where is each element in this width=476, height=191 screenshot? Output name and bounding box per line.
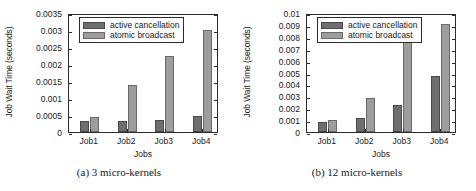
- bar-job2-atomic-broadcast: [128, 85, 137, 132]
- x-axis-tick-mark: [90, 129, 91, 132]
- y-tick-label: 0.002: [279, 105, 300, 114]
- bar-job4-atomic-broadcast: [203, 30, 212, 132]
- x-tick-label-job1: Job1: [80, 136, 98, 146]
- legend-swatch-icon-atomic-broadcast: [321, 32, 343, 39]
- y-axis-tick-mark: [307, 51, 310, 52]
- legend-item-atomic-broadcast: atomic broadcast: [321, 30, 417, 40]
- bar-job3-active-cancellation: [393, 105, 402, 132]
- y-axis-tick-mark-right: [452, 63, 455, 64]
- legend-label-atomic-broadcast: atomic broadcast: [110, 31, 175, 40]
- y-axis-tick-mark: [307, 27, 310, 28]
- y-axis-tick-labels-b: 00.0010.0020.0030.0040.0050.0060.0070.00…: [254, 14, 300, 133]
- y-tick-label: 0.004: [279, 81, 300, 90]
- y-tick-label: 0.001: [279, 117, 300, 126]
- bar-job3-active-cancellation: [155, 120, 164, 132]
- legend-swatch-icon-active-cancellation: [83, 22, 105, 29]
- y-axis-tick-mark-right: [452, 122, 455, 123]
- y-tick-label: 0.007: [279, 45, 300, 54]
- y-tick-label: 0: [295, 129, 300, 138]
- y-tick-label: 0.0015: [36, 78, 62, 87]
- bar-job1-active-cancellation: [318, 122, 327, 132]
- y-axis-tick-mark: [69, 134, 72, 135]
- x-axis-tick-mark: [403, 129, 404, 132]
- legend-swatch-icon-atomic-broadcast: [83, 32, 105, 39]
- x-tick-label-job2: Job2: [355, 136, 373, 146]
- x-tick-label-job4: Job4: [192, 136, 210, 146]
- figure-container: Job Wait Time (seconds) 00.00050.0010.00…: [0, 0, 476, 191]
- y-tick-label: 0.006: [279, 57, 300, 66]
- y-axis-tick-mark: [307, 75, 310, 76]
- y-axis-tick-mark-right: [452, 110, 455, 111]
- y-axis-tick-mark-right: [452, 15, 455, 16]
- y-axis-tick-mark: [69, 100, 72, 101]
- legend-item-atomic-broadcast: atomic broadcast: [83, 30, 179, 40]
- y-axis-tick-mark-right: [452, 98, 455, 99]
- y-axis-tick-mark: [69, 117, 72, 118]
- y-axis-tick-mark-right: [214, 134, 217, 135]
- y-axis-tick-mark-right: [214, 83, 217, 84]
- x-axis-tick-mark: [365, 129, 366, 132]
- y-axis-tick-mark-right: [452, 75, 455, 76]
- y-axis-tick-mark-right: [452, 86, 455, 87]
- y-axis-tick-mark-right: [452, 39, 455, 40]
- y-axis-tick-mark: [69, 49, 72, 50]
- bar-job2-active-cancellation: [356, 118, 365, 132]
- legend-label-active-cancellation: active cancellation: [110, 21, 179, 30]
- y-axis-tick-mark-right: [214, 100, 217, 101]
- y-axis-tick-mark: [307, 98, 310, 99]
- bar-job1-active-cancellation: [80, 121, 89, 132]
- legend-label-atomic-broadcast: atomic broadcast: [348, 31, 413, 40]
- x-tick-label-job4: Job4: [430, 136, 448, 146]
- y-axis-tick-mark-right: [214, 15, 217, 16]
- legend-label-active-cancellation: active cancellation: [348, 21, 417, 30]
- x-axis-tick-mark: [328, 129, 329, 132]
- y-axis-tick-mark: [307, 134, 310, 135]
- legend-swatch-icon-active-cancellation: [321, 22, 343, 29]
- plot-area-a: active cancellation atomic broadcast: [68, 14, 218, 133]
- y-tick-label: 0.0025: [36, 44, 62, 53]
- y-axis-tick-mark-right: [214, 49, 217, 50]
- y-axis-tick-mark: [69, 66, 72, 67]
- y-axis-tick-mark: [69, 15, 72, 16]
- x-axis-tick-labels-b: Job1Job2Job3Job4: [306, 136, 456, 148]
- y-axis-tick-mark: [307, 122, 310, 123]
- y-axis-tick-mark-right: [214, 32, 217, 33]
- y-tick-label: 0.002: [41, 61, 62, 70]
- y-axis-tick-mark: [307, 110, 310, 111]
- bar-job4-active-cancellation: [193, 116, 202, 132]
- x-axis-tick-mark: [165, 129, 166, 132]
- y-tick-label: 0.003: [41, 27, 62, 36]
- bar-job1-atomic-broadcast: [328, 120, 337, 132]
- y-axis-tick-mark-right: [214, 117, 217, 118]
- y-axis-title-a: Job Wait Time (seconds): [4, 0, 16, 16]
- x-tick-label-job3: Job3: [393, 136, 411, 146]
- chart-panel-b: Job Wait Time (seconds) 00.0010.0020.003…: [238, 0, 476, 191]
- x-axis-tick-mark: [440, 129, 441, 132]
- y-axis-tick-mark: [69, 83, 72, 84]
- legend-a: active cancellation atomic broadcast: [79, 17, 184, 43]
- y-axis-tick-mark: [307, 15, 310, 16]
- x-axis-tick-mark: [202, 129, 203, 132]
- y-axis-tick-mark-right: [214, 66, 217, 67]
- chart-panel-a: Job Wait Time (seconds) 00.00050.0010.00…: [0, 0, 238, 191]
- plot-area-b: active cancellation atomic broadcast: [306, 14, 456, 133]
- bar-job2-atomic-broadcast: [366, 98, 375, 133]
- legend-item-active-cancellation: active cancellation: [321, 20, 417, 30]
- y-tick-label: 0.0035: [36, 10, 62, 19]
- y-axis-tick-mark: [307, 39, 310, 40]
- legend-item-active-cancellation: active cancellation: [83, 20, 179, 30]
- x-axis-tick-mark: [127, 129, 128, 132]
- x-tick-label-job2: Job2: [117, 136, 135, 146]
- y-tick-label: 0.003: [279, 93, 300, 102]
- y-axis-tick-labels-a: 00.00050.0010.00150.0020.00250.0030.0035: [16, 14, 62, 133]
- y-axis-tick-mark-right: [452, 134, 455, 135]
- x-axis-title-a: Jobs: [134, 149, 152, 159]
- y-tick-label: 0.008: [279, 33, 300, 42]
- panel-caption-a: (a) 3 micro-kernels: [0, 166, 238, 178]
- y-axis-tick-mark: [69, 32, 72, 33]
- y-tick-label: 0.005: [279, 69, 300, 78]
- x-axis-tick-labels-a: Job1Job2Job3Job4: [68, 136, 218, 148]
- y-axis-tick-mark-right: [452, 27, 455, 28]
- bar-job4-atomic-broadcast: [441, 24, 450, 132]
- x-axis-title-b: Jobs: [372, 149, 390, 159]
